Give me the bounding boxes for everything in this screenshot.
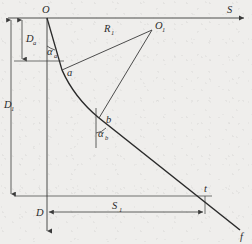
point-label-O1: O 1 [155, 20, 165, 33]
point-label-t: t [204, 183, 208, 194]
angle-label-alpha-b-base: α [98, 128, 104, 139]
point-label-a: a [67, 67, 72, 78]
axis-label-D: D [35, 207, 44, 218]
axis-label-S: S [227, 4, 233, 15]
angle-label-alpha-a-sub: a [54, 52, 57, 59]
point-label-O: O [42, 4, 50, 15]
point-label-f: f [240, 231, 245, 242]
radius-label-R1: R 1 [103, 23, 114, 36]
dim-label-S1-base: S [112, 200, 118, 211]
angle-label-alpha-b: α b [98, 128, 109, 141]
radius-label-R1-base: R [103, 23, 111, 34]
dim-label-S1-sub: 1 [119, 206, 122, 213]
angle-label-alpha-a-base: α [47, 46, 53, 57]
tangent-hole-section [99, 118, 240, 230]
diagram-root: S O O 1 R 1 D a D 1 S 1 D [0, 0, 252, 244]
vertical-hole-section [47, 18, 62, 70]
dim-label-Da-sub: a [33, 39, 36, 46]
point-label-O1-sub: 1 [162, 26, 165, 33]
geometry-figure: S O O 1 R 1 D a D 1 S 1 D [0, 0, 252, 244]
dim-label-S1: S 1 [112, 200, 122, 213]
dim-label-D1-sub: 1 [11, 105, 14, 112]
dim-label-D1: D 1 [3, 99, 14, 112]
radius-label-R1-sub: 1 [111, 29, 114, 36]
radius-line-to-a [62, 30, 152, 70]
point-label-b: b [106, 114, 111, 125]
radius-line-to-b [99, 30, 152, 118]
dim-label-Da: D a [25, 33, 36, 46]
angle-label-alpha-b-sub: b [105, 134, 109, 141]
